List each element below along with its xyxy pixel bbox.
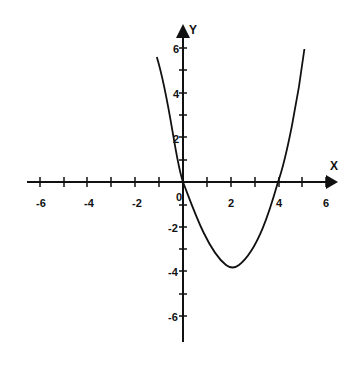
coordinate-plane: X Y -6 -4 -2 0 2 4 6 6 4 2 -2 -4 -6	[0, 0, 356, 370]
x-axis-arrow-icon	[326, 175, 338, 189]
y-axis-label: Y	[189, 23, 197, 37]
x-axis-label: X	[330, 159, 338, 173]
y-tick-label: 4	[173, 88, 180, 100]
y-tick-label: -2	[168, 222, 178, 234]
x-tick-label: 6	[323, 197, 329, 209]
y-tick-label: 6	[173, 43, 179, 55]
y-tick-label: 2	[173, 133, 179, 145]
y-tick-label: -6	[168, 311, 178, 323]
x-tick-label: -6	[36, 197, 46, 209]
x-tick-label: 4	[276, 197, 283, 209]
parabola-curve	[157, 49, 305, 268]
y-tick-label: -4	[168, 266, 179, 278]
x-tick-label: -4	[84, 197, 95, 209]
y-axis-arrow-icon	[176, 24, 190, 38]
origin-label: 0	[176, 191, 182, 203]
x-tick-label: -2	[132, 197, 142, 209]
x-tick-label: 2	[228, 197, 234, 209]
